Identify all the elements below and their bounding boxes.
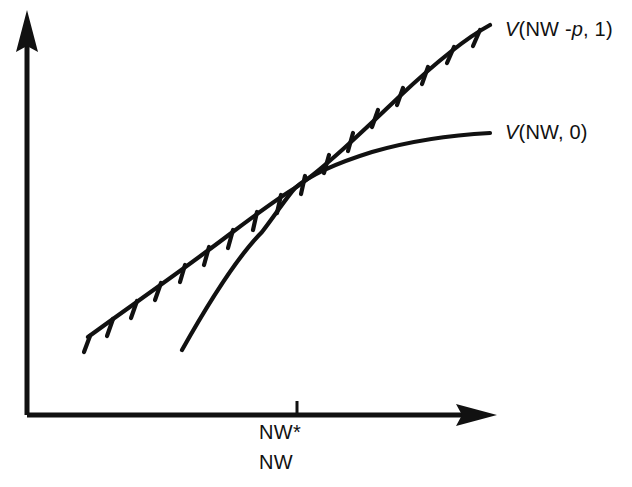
- y-axis-arrowhead-icon: [16, 10, 38, 52]
- y-axis: [16, 10, 38, 415]
- curve-label-top-p-symbol: p: [572, 18, 583, 40]
- x-axis-tick-label-nw-star: NW*: [259, 421, 301, 444]
- curve-label-top-v-symbol: V: [505, 18, 519, 40]
- figure-drawing: [0, 0, 632, 487]
- curve-label-bottom-v-symbol: V: [505, 121, 519, 143]
- x-axis-title: NW: [259, 451, 293, 474]
- curve-label-v-nw-0: V(NW, 0): [505, 121, 588, 144]
- curve-label-top-body-before: (NW -: [519, 18, 572, 40]
- curve-label-v-nw-minus-p-1: V(NW -p, 1): [505, 18, 613, 41]
- curve-label-bottom-body: (NW, 0): [519, 121, 588, 143]
- figure-canvas: V(NW -p, 1) V(NW, 0) NW* NW: [0, 0, 632, 487]
- curve-label-top-body-after: , 1): [583, 18, 613, 40]
- curve-v-nw-minus-p-1: [88, 25, 490, 337]
- x-axis-arrowhead-icon: [456, 404, 497, 426]
